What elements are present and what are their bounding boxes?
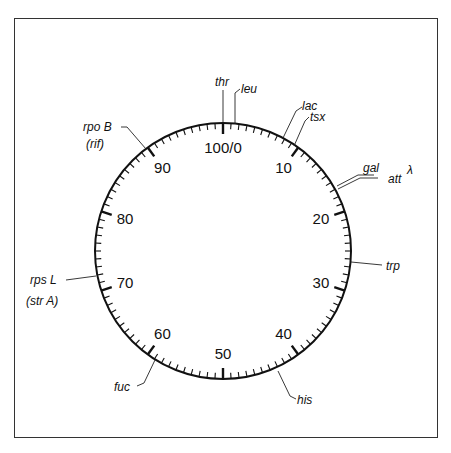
scale-ticks: [95, 123, 351, 379]
minor-tick: [246, 371, 247, 377]
scale-label-60: 60: [154, 325, 171, 342]
rpsL-leader: [66, 276, 96, 280]
minor-tick: [343, 227, 349, 228]
minor-tick: [282, 139, 285, 144]
major-tick: [292, 147, 298, 156]
minor-tick: [161, 139, 164, 144]
minor-tick: [199, 371, 200, 377]
minor-tick: [307, 340, 311, 344]
minor-tick: [307, 158, 311, 162]
minor-tick: [317, 169, 322, 173]
scale-label-50: 50: [215, 345, 232, 362]
minor-tick: [253, 369, 254, 375]
minor-tick: [268, 132, 270, 138]
scale-label-40: 40: [275, 325, 292, 342]
scale-label-20: 20: [313, 210, 330, 227]
minor-tick: [333, 197, 338, 200]
minor-tick: [326, 316, 331, 319]
minor-tick: [104, 204, 110, 206]
major-tick: [292, 346, 298, 355]
gene-label-gal: gal: [363, 161, 379, 175]
minor-tick: [288, 354, 291, 359]
minor-tick: [99, 219, 105, 220]
minor-tick: [169, 361, 172, 366]
minor-tick: [191, 127, 192, 133]
minor-tick: [330, 189, 335, 192]
trp-leader: [351, 262, 382, 265]
minor-tick: [107, 197, 112, 200]
minor-tick: [253, 127, 254, 133]
scale-label-0: 100/0: [204, 139, 242, 156]
minor-tick: [336, 296, 342, 298]
scale-label-80: 80: [117, 210, 134, 227]
chromosome-circle: [95, 123, 351, 379]
minor-tick: [135, 158, 139, 162]
gene-label-trp: trp: [386, 259, 400, 273]
minor-tick: [191, 369, 192, 375]
minor-tick: [261, 129, 263, 135]
minor-tick: [176, 132, 178, 138]
minor-tick: [96, 266, 102, 267]
minor-tick: [111, 310, 116, 313]
minor-tick: [130, 163, 134, 167]
minor-tick: [326, 182, 331, 185]
minor-tick: [288, 143, 291, 148]
minor-tick: [343, 274, 349, 275]
minor-tick: [301, 345, 305, 350]
minor-tick: [115, 316, 120, 319]
scale-labels: 100/0102030405060708090: [117, 139, 330, 362]
minor-tick: [207, 372, 208, 378]
minor-tick: [336, 204, 342, 206]
minor-tick: [330, 310, 335, 313]
minor-tick: [115, 182, 120, 185]
minor-tick: [341, 219, 347, 220]
gene-label-rpoB: rpo B: [83, 120, 112, 134]
rpoB-leader: [121, 127, 146, 149]
gene-label-leu: leu: [241, 82, 257, 96]
gene-label-rif: (rif): [86, 137, 104, 151]
gene-label-att: att: [388, 172, 402, 186]
gene-label-strA: (str A): [26, 294, 58, 308]
minor-tick: [207, 124, 208, 130]
minor-tick: [344, 235, 350, 236]
minor-tick: [107, 303, 112, 306]
scale-label-70: 70: [117, 274, 134, 291]
minor-tick: [275, 361, 278, 366]
minor-tick: [268, 364, 270, 370]
scale-label-90: 90: [154, 159, 171, 176]
circular-genetic-map: 100/0102030405060708090 thr leu lac tsx …: [0, 0, 451, 453]
his-leader: [278, 371, 296, 399]
major-tick: [101, 287, 111, 290]
gene-label-rpsL: rps L: [30, 273, 57, 287]
minor-tick: [97, 227, 103, 228]
leu-leader: [235, 89, 240, 124]
minor-tick: [238, 372, 239, 378]
minor-tick: [261, 367, 263, 373]
minor-tick: [333, 303, 338, 306]
gene-label-fuc: fuc: [114, 380, 130, 394]
minor-tick: [96, 235, 102, 236]
minor-tick: [99, 281, 105, 282]
minor-tick: [312, 335, 316, 339]
gene-label-lambda: λ: [406, 163, 413, 177]
minor-tick: [154, 143, 157, 148]
major-tick: [148, 147, 154, 156]
minor-tick: [104, 296, 110, 298]
minor-tick: [97, 274, 103, 275]
minor-tick: [141, 345, 145, 350]
minor-tick: [312, 163, 316, 167]
major-tick: [101, 211, 111, 214]
minor-tick: [322, 323, 327, 327]
minor-tick: [282, 358, 285, 363]
minor-tick: [169, 135, 172, 140]
gene-label-thr: thr: [215, 75, 230, 89]
minor-tick: [183, 367, 185, 373]
minor-tick: [154, 354, 157, 359]
minor-tick: [341, 281, 347, 282]
minor-tick: [183, 129, 185, 135]
minor-tick: [111, 189, 116, 192]
major-tick: [334, 287, 344, 290]
tsx-leader: [294, 117, 309, 146]
att-leader: [338, 178, 378, 189]
minor-tick: [322, 176, 327, 180]
